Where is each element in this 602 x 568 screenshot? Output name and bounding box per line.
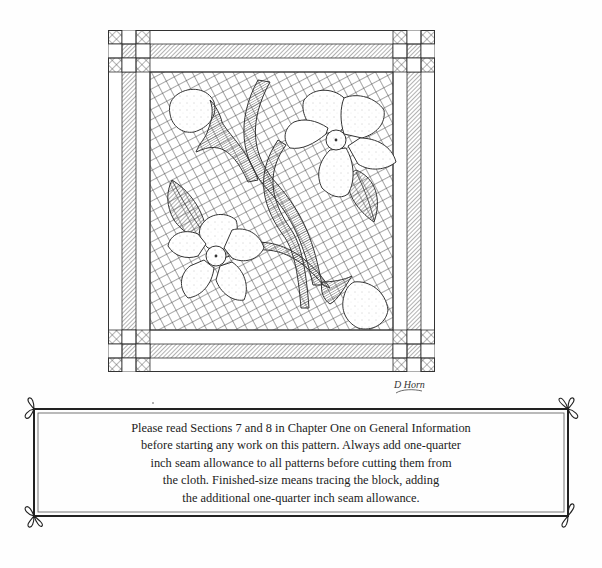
notice-line: Please read Sections 7 and 8 in Chapter …: [48, 420, 554, 437]
notice-line: before starting any work on this pattern…: [48, 437, 554, 454]
notice-line: inch seam allowance to all patterns befo…: [48, 455, 554, 472]
pattern-page: D Horn: [0, 0, 602, 568]
seam-allowance-notice: Please read Sections 7 and 8 in Chapter …: [48, 420, 554, 507]
notice-line: the additional one-quarter inch seam all…: [48, 490, 554, 507]
signature-text: D Horn: [393, 379, 425, 390]
notice-line: the cloth. Finished-size means tracing t…: [48, 472, 554, 489]
quilt-block-illustration: [108, 30, 435, 372]
